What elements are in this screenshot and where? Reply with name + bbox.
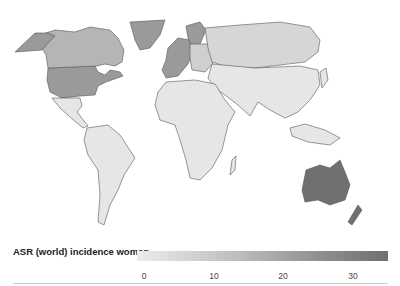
region-south-america[interactable] xyxy=(84,125,135,225)
region-new-zealand[interactable] xyxy=(348,205,362,225)
legend-tick-20: 20 xyxy=(278,271,287,281)
region-greenland[interactable] xyxy=(130,20,165,50)
region-mexico-central-america[interactable] xyxy=(52,98,88,128)
region-usa[interactable] xyxy=(47,66,123,98)
bottom-divider xyxy=(13,283,388,284)
legend-tick-0: 0 xyxy=(142,271,147,281)
region-canada[interactable] xyxy=(40,27,124,68)
region-japan[interactable] xyxy=(320,68,328,88)
legend-title: ASR (world) incidence women xyxy=(13,246,149,257)
region-madagascar[interactable] xyxy=(230,156,236,175)
legend-tick-10: 10 xyxy=(209,271,218,281)
region-southeast-asia[interactable] xyxy=(290,124,340,145)
region-russia[interactable] xyxy=(205,22,320,68)
legend-tick-30: 30 xyxy=(348,271,357,281)
region-australia[interactable] xyxy=(302,160,350,205)
region-western-europe[interactable] xyxy=(162,38,193,78)
legend-color-scale xyxy=(137,251,388,261)
legend: ASR (world) incidence women 0 10 20 30 xyxy=(0,240,400,280)
region-africa[interactable] xyxy=(155,80,235,180)
world-map xyxy=(0,0,400,230)
